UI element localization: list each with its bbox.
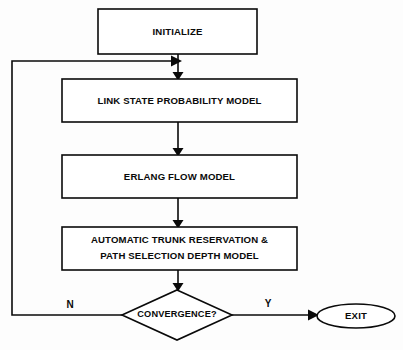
node-trunk-reservation-label-line1: AUTOMATIC TRUNK RESERVATION & xyxy=(91,234,268,245)
edge-trunk-reservation-to-convergence xyxy=(173,270,184,292)
edge-convergence-to-exit xyxy=(232,310,319,321)
node-convergence-label: CONVERGENCE? xyxy=(137,309,217,319)
feedback-loop-arrowhead-icon xyxy=(171,56,182,67)
edge-label-yes: Y xyxy=(265,298,272,309)
edge-erlang-flow-to-trunk-reservation xyxy=(173,198,184,229)
node-erlang-flow-label: ERLANG FLOW MODEL xyxy=(124,171,235,182)
node-exit-label: EXIT xyxy=(345,310,367,321)
node-initialize-label: INITIALIZE xyxy=(153,26,203,37)
node-erlang-flow-model[interactable]: ERLANG FLOW MODEL xyxy=(62,155,297,198)
edge-link-state-to-erlang-flow xyxy=(173,122,184,157)
node-exit-terminal[interactable]: EXIT xyxy=(317,304,395,328)
node-link-state-probability-model[interactable]: LINK STATE PROBABILITY MODEL xyxy=(62,79,297,122)
node-trunk-reservation-label-line2: PATH SELECTION DEPTH MODEL xyxy=(100,250,259,261)
node-link-state-label: LINK STATE PROBABILITY MODEL xyxy=(97,95,261,106)
edge-label-no: N xyxy=(66,299,73,310)
node-initialize[interactable]: INITIALIZE xyxy=(98,9,257,54)
flowchart-canvas: INITIALIZE LINK STATE PROBABILITY MODEL … xyxy=(0,0,403,350)
node-trunk-reservation-model[interactable]: AUTOMATIC TRUNK RESERVATION & PATH SELEC… xyxy=(62,227,297,270)
node-convergence-decision[interactable]: CONVERGENCE? xyxy=(122,290,232,340)
flowchart-diagram: INITIALIZE LINK STATE PROBABILITY MODEL … xyxy=(0,0,403,350)
